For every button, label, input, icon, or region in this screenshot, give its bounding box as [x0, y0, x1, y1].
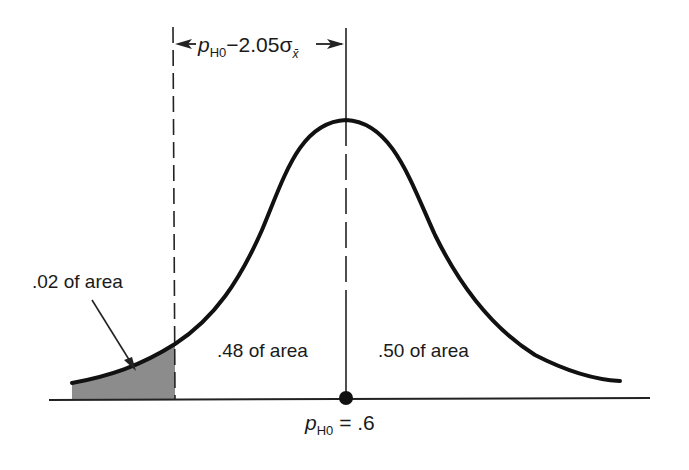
- tail-pointer-line: [92, 300, 133, 366]
- center-point-marker: [339, 391, 353, 405]
- normal-curve-diagram: pH0−2.05σx̄ .02 of area .48 of area .50 …: [0, 0, 689, 470]
- middle-left-area-label: .48 of area: [217, 340, 308, 361]
- center-value-label: pH0 = .6: [304, 411, 375, 438]
- bracket-label: pH0−2.05σx̄: [197, 33, 299, 61]
- tail-area-label: .02 of area: [32, 271, 123, 292]
- right-half-area-label: .50 of area: [378, 340, 469, 361]
- diagram-canvas: pH0−2.05σx̄ .02 of area .48 of area .50 …: [0, 0, 689, 470]
